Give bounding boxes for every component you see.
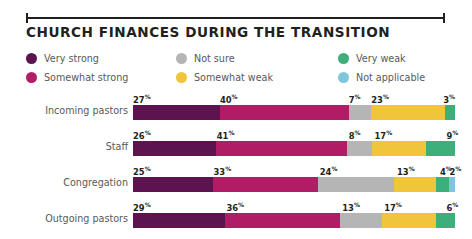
bar-segment-value: 17%: [384, 201, 402, 213]
value-number: 25: [133, 167, 145, 177]
value-number: 29: [133, 203, 145, 213]
bar-segment-value: 17%: [375, 129, 393, 141]
bar-segment[interactable]: [220, 105, 349, 120]
percent-sign: %: [455, 165, 461, 172]
legend-row: Very strongNot sureVery weak: [26, 49, 446, 68]
legend-item-label: Not sure: [194, 53, 235, 64]
bar-segment[interactable]: [133, 213, 225, 228]
value-number: 36: [226, 203, 238, 213]
chart-row: Outgoing pastors29%36%13%17%6%: [0, 200, 472, 236]
bar-area: 26%41%8%17%9%: [133, 128, 455, 164]
bar-segment[interactable]: [371, 105, 445, 120]
bar-segment[interactable]: [436, 213, 455, 228]
percent-sign: %: [145, 165, 151, 172]
header-rule: [26, 13, 445, 23]
bar-segment[interactable]: [436, 177, 449, 192]
row-label: Outgoing pastors: [0, 213, 128, 224]
stacked-bar: [133, 105, 455, 120]
value-number: 17: [375, 131, 387, 141]
percent-sign: %: [386, 129, 392, 136]
bar-value-labels: 26%41%8%17%9%: [133, 128, 455, 141]
bar-segment[interactable]: [445, 105, 455, 120]
value-number: 33: [214, 167, 226, 177]
legend-item-very_weak[interactable]: Very weak: [338, 53, 406, 64]
legend-item-label: Very strong: [44, 53, 99, 64]
bar-value-labels: 25%33%24%13%4%2%: [133, 164, 455, 177]
bar-segment[interactable]: [372, 141, 426, 156]
bar-segment-value: 29%: [133, 201, 151, 213]
value-number: 24: [320, 167, 332, 177]
legend-item-not_applicable[interactable]: Not applicable: [338, 72, 425, 83]
bar-segment-value: 13%: [397, 165, 415, 177]
chart-title: CHURCH FINANCES DURING THE TRANSITION: [26, 24, 390, 40]
value-number: 27: [133, 95, 145, 105]
percent-sign: %: [355, 93, 361, 100]
bar-area: 29%36%13%17%6%: [133, 200, 455, 236]
percent-sign: %: [238, 201, 244, 208]
rule-line: [26, 17, 445, 19]
row-label: Staff: [0, 141, 128, 152]
bar-area: 25%33%24%13%4%2%: [133, 164, 455, 200]
bar-segment[interactable]: [394, 177, 435, 192]
bar-segment-value: 33%: [214, 165, 232, 177]
legend-item-not_sure[interactable]: Not sure: [176, 53, 338, 64]
legend-item-very_strong[interactable]: Very strong: [26, 53, 176, 64]
bar-segment[interactable]: [349, 105, 372, 120]
bar-segment[interactable]: [318, 177, 395, 192]
bar-segment[interactable]: [133, 105, 220, 120]
bar-segment[interactable]: [225, 213, 340, 228]
chart-row: Staff26%41%8%17%9%: [0, 128, 472, 164]
bar-value-labels: 29%36%13%17%6%: [133, 200, 455, 213]
bar-segment[interactable]: [213, 177, 318, 192]
percent-sign: %: [232, 93, 238, 100]
chart-legend: Very strongNot sureVery weakSomewhat str…: [26, 49, 446, 87]
bar-segment-value: 2%: [449, 165, 461, 177]
bar-segment[interactable]: [340, 213, 381, 228]
bar-segment-value: 27%: [133, 93, 151, 105]
legend-item-label: Very weak: [356, 53, 406, 64]
bar-area: 27%40%7%23%3%: [133, 92, 455, 128]
bar-segment[interactable]: [133, 141, 216, 156]
legend-row: Somewhat strongSomewhat weakNot applicab…: [26, 68, 446, 87]
bar-segment[interactable]: [449, 177, 455, 192]
bar-segment-value: 13%: [342, 201, 360, 213]
legend-swatch-icon: [338, 53, 349, 64]
value-number: 13: [342, 203, 354, 213]
bar-segment-value: 9%: [446, 129, 458, 141]
value-number: 23: [371, 95, 383, 105]
bar-segment-value: 24%: [320, 165, 338, 177]
bar-segment-value: 40%: [220, 93, 238, 105]
value-number: 41: [217, 131, 229, 141]
value-number: 17: [384, 203, 396, 213]
bar-segment-value: 25%: [133, 165, 151, 177]
percent-sign: %: [452, 201, 458, 208]
value-number: 13: [397, 167, 409, 177]
bar-value-labels: 27%40%7%23%3%: [133, 92, 455, 105]
value-number: 40: [220, 95, 232, 105]
value-number: 26: [133, 131, 145, 141]
bar-segment[interactable]: [133, 177, 213, 192]
legend-item-label: Not applicable: [356, 72, 425, 83]
legend-item-label: Somewhat strong: [44, 72, 128, 83]
bar-segment[interactable]: [426, 141, 455, 156]
bar-segment[interactable]: [216, 141, 347, 156]
legend-item-somewhat_weak[interactable]: Somewhat weak: [176, 72, 338, 83]
bar-segment-value: 3%: [443, 93, 455, 105]
legend-swatch-icon: [338, 72, 349, 83]
percent-sign: %: [145, 129, 151, 136]
percent-sign: %: [145, 93, 151, 100]
bar-segment-value: 41%: [217, 129, 235, 141]
stacked-bar: [133, 177, 455, 192]
legend-swatch-icon: [26, 72, 37, 83]
percent-sign: %: [409, 165, 415, 172]
row-label: Incoming pastors: [0, 105, 128, 116]
stacked-bar: [133, 141, 455, 156]
bar-segment[interactable]: [347, 141, 373, 156]
legend-item-somewhat_strong[interactable]: Somewhat strong: [26, 72, 176, 83]
percent-sign: %: [383, 93, 389, 100]
percent-sign: %: [396, 201, 402, 208]
percent-sign: %: [449, 93, 455, 100]
bar-segment-value: 6%: [446, 201, 458, 213]
bar-segment[interactable]: [382, 213, 436, 228]
percent-sign: %: [225, 165, 231, 172]
